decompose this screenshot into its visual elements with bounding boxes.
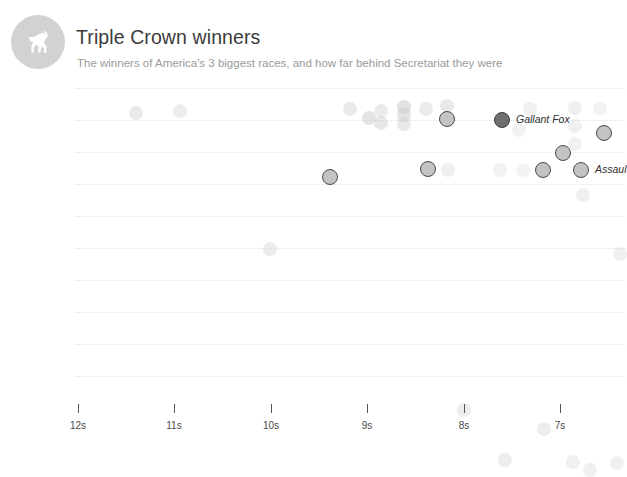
x-axis-tick-label: 11s xyxy=(154,420,194,431)
x-axis-tick xyxy=(367,404,368,413)
data-point[interactable] xyxy=(566,455,580,469)
x-axis-tick-label: 8s xyxy=(444,420,484,431)
data-point[interactable] xyxy=(498,453,512,467)
x-axis: 12s11s10s9s8s7s xyxy=(0,82,626,455)
data-point[interactable] xyxy=(610,456,624,470)
x-axis-tick-label: 9s xyxy=(347,420,387,431)
x-axis-tick xyxy=(464,404,465,413)
data-point[interactable] xyxy=(583,463,597,477)
page-title: Triple Crown winners xyxy=(76,26,260,49)
x-axis-tick xyxy=(174,404,175,413)
scatter-plot: Gallant FoxAssaul 12s11s10s9s8s7s xyxy=(0,82,626,455)
horse-icon xyxy=(11,15,65,69)
x-axis-tick xyxy=(560,404,561,413)
page-subtitle: The winners of America's 3 biggest races… xyxy=(77,57,502,69)
x-axis-tick xyxy=(78,404,79,413)
page-header: Triple Crown winners The winners of Amer… xyxy=(0,0,626,82)
x-axis-tick-label: 12s xyxy=(58,420,98,431)
x-axis-tick-label: 10s xyxy=(251,420,291,431)
x-axis-tick xyxy=(271,404,272,413)
x-axis-tick-label: 7s xyxy=(540,420,580,431)
